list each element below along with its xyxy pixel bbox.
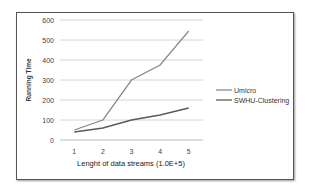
series-lines	[74, 31, 188, 132]
legend-label: SWHU-Clustering	[234, 97, 289, 105]
legend: UmicroSWHU-Clustering	[216, 87, 289, 105]
legend-label: Umicro	[234, 87, 256, 94]
y-tick-label: 500	[42, 37, 54, 44]
x-axis-label: Lenght of data streams (1.0E+5)	[77, 159, 185, 168]
x-tick-label: 2	[101, 148, 105, 155]
y-tick-label: 400	[42, 57, 54, 64]
y-tick-label: 100	[42, 117, 54, 124]
y-tick-label: 200	[42, 97, 54, 104]
x-tick-label: 3	[130, 148, 134, 155]
y-axis-label: Running Time	[25, 58, 33, 102]
y-tick-label: 600	[42, 17, 54, 24]
line-chart: 0100200300400500600 12345 Running Time L…	[0, 0, 311, 195]
x-axis-ticks: 12345	[72, 148, 190, 155]
x-tick-label: 4	[158, 148, 162, 155]
x-tick-label: 1	[72, 148, 76, 155]
y-tick-label: 0	[50, 137, 54, 144]
y-tick-label: 300	[42, 77, 54, 84]
x-tick-label: 5	[187, 148, 191, 155]
y-axis-ticks: 0100200300400500600	[42, 17, 54, 144]
